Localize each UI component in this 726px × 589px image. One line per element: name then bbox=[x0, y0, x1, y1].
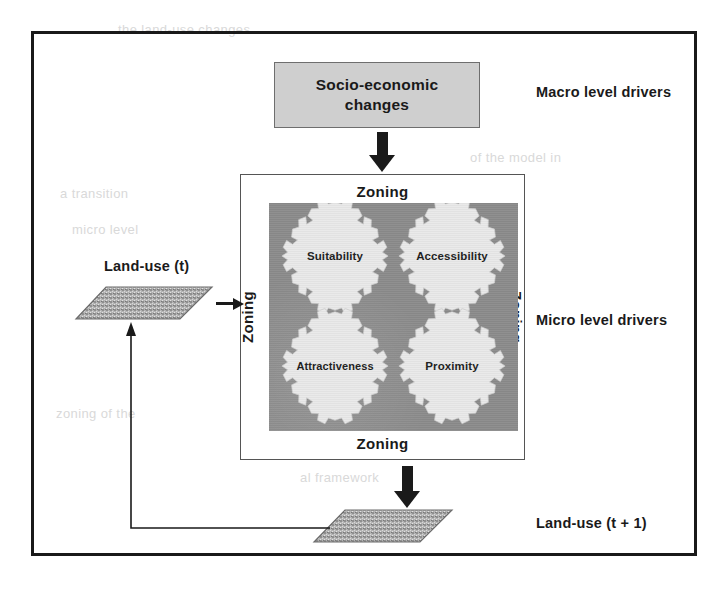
figure-canvas: the land-use changes of the model in a t… bbox=[0, 0, 726, 589]
macro-level-drivers-label: Macro level drivers bbox=[536, 84, 671, 100]
micro-level-drivers-label: Micro level drivers bbox=[536, 312, 667, 328]
landuse-t1-label: Land-use (t + 1) bbox=[536, 515, 647, 531]
